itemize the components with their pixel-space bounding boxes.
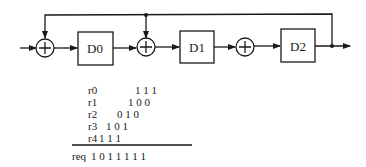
junction-dot	[330, 44, 334, 48]
row-bits: 1 0 0	[128, 96, 150, 108]
register-d2-label: D2	[290, 39, 306, 54]
row-bits: 1 1 1	[99, 132, 121, 144]
row-name: r3	[88, 120, 97, 132]
register-d1-label: D1	[189, 40, 205, 55]
row-name: r2	[88, 108, 97, 120]
adder-1-icon	[36, 39, 54, 57]
row-bits: 0 1 0	[117, 108, 139, 120]
lfsr-diagram: D0 D1 D2	[0, 0, 366, 167]
row-name: r4	[88, 132, 97, 144]
adder-3-icon	[236, 38, 254, 56]
result-bits: 1 0 1 1 1 1 1	[91, 150, 146, 162]
row-bits: 1 1 1	[135, 84, 157, 96]
row-name: r0	[88, 84, 97, 96]
row-bits: 1 0 1	[106, 120, 128, 132]
adder-2-icon	[137, 38, 155, 56]
register-d0-label: D0	[87, 41, 103, 56]
row-name: r1	[88, 96, 97, 108]
result-name: req	[72, 150, 86, 162]
junction-dot	[144, 13, 148, 17]
